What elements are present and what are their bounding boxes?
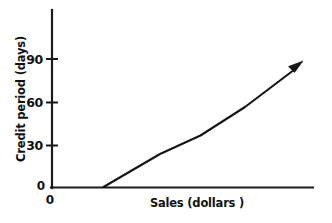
x-axis-title: Sales (dollars ) [150,196,244,210]
y-axis-origin-label: 0 [37,179,45,193]
y-axis-title: Credit period (days) [14,36,28,162]
chart-background [0,0,332,223]
chart-canvas: 90 60 30 0 0 Sales (dollars ) Credit per… [0,0,332,223]
y-tick-label-30: 30 [26,138,43,153]
x-axis-origin-label: 0 [46,193,54,207]
y-tick-label-60: 60 [26,95,43,110]
y-tick-label-90: 90 [26,52,43,67]
